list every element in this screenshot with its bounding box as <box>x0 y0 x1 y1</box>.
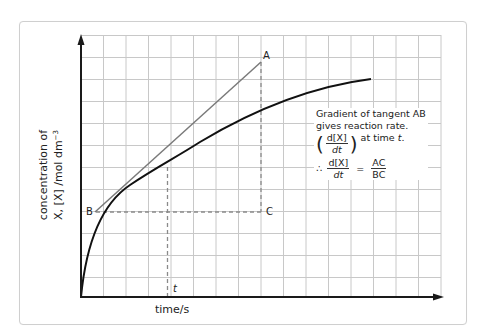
x-axis-arrow-icon <box>433 294 444 301</box>
y-axis-label-line2: X, [X] /mol dm <box>52 140 65 220</box>
rate-fraction-denominator: dt <box>332 144 342 155</box>
rate-fraction-numerator: d[X] <box>326 132 348 144</box>
rate-equation: ∴ d[X]dt = ACBC <box>316 157 426 180</box>
note-line1: Gradient of tangent AB <box>316 108 426 120</box>
eq-rhs: ACBC <box>371 157 386 180</box>
note-at-time: at time <box>361 132 395 143</box>
therefore-icon: ∴ <box>316 163 321 175</box>
open-paren: ( <box>316 132 324 156</box>
point-a-label: A <box>263 50 270 61</box>
close-paren: ) <box>350 132 358 156</box>
eq-lhs-denominator: dt <box>333 169 343 180</box>
time-t-label: t <box>173 283 177 294</box>
eq-lhs: d[X]dt <box>327 157 349 180</box>
equals-sign: = <box>356 163 364 175</box>
y-axis-label-sup: −3 <box>52 130 60 140</box>
x-axis-label: time/s <box>155 303 189 316</box>
eq-lhs-numerator: d[X] <box>327 157 349 169</box>
note-line2: gives reaction rate. <box>316 120 426 132</box>
y-axis-label-line2-wrap: X, [X] /mol dm−3 <box>50 100 66 250</box>
eq-rhs-numerator: AC <box>371 157 386 169</box>
point-b-label: B <box>86 206 93 217</box>
eq-rhs-denominator: BC <box>372 169 385 180</box>
gradient-note: Gradient of tangent AB gives reaction ra… <box>314 108 428 180</box>
note-line3: (d[X]dt) at time t. <box>316 132 426 155</box>
y-axis-label-line1: concentration of <box>37 100 50 250</box>
note-period: . <box>401 132 404 143</box>
point-c-label: C <box>266 206 273 217</box>
dashed-lines <box>96 62 261 297</box>
rate-fraction: d[X]dt <box>326 132 348 155</box>
